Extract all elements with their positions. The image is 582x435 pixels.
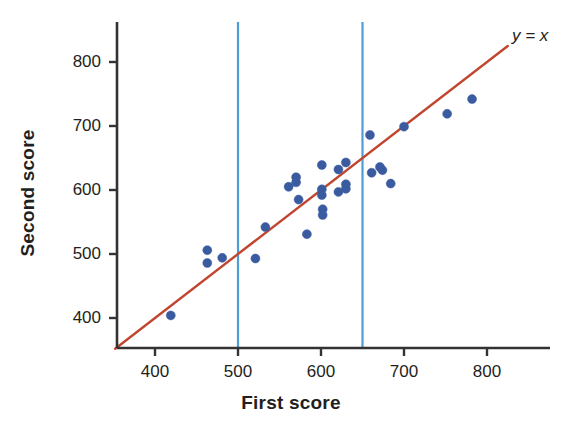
x-axis-tick-label: 800 xyxy=(457,362,517,382)
identity-line-group xyxy=(115,46,508,349)
y-axis-tick-label: 500 xyxy=(41,244,101,264)
identity-line xyxy=(115,46,508,349)
x-axis-tick-label: 600 xyxy=(291,362,351,382)
axis-lines-group xyxy=(109,22,550,356)
data-point xyxy=(365,130,374,139)
y-axis-title: Second score xyxy=(17,93,39,293)
chart-figure: First score Second score y = x 400500600… xyxy=(0,0,582,435)
data-point xyxy=(302,230,311,239)
data-point xyxy=(378,166,387,175)
identity-line-label: y = x xyxy=(512,26,548,46)
y-axis-tick-label: 700 xyxy=(41,116,101,136)
y-axis-tick-label: 400 xyxy=(41,308,101,328)
data-point xyxy=(292,178,301,187)
data-point xyxy=(341,158,350,167)
x-axis-title: First score xyxy=(0,392,582,414)
data-point xyxy=(386,179,395,188)
data-point xyxy=(317,191,326,200)
data-point xyxy=(367,168,376,177)
data-point xyxy=(203,246,212,255)
data-point xyxy=(400,122,409,131)
x-axis-tick-label: 500 xyxy=(208,362,268,382)
data-point xyxy=(341,184,350,193)
data-point xyxy=(334,165,343,174)
data-point xyxy=(443,109,452,118)
x-axis-tick-label: 400 xyxy=(125,362,185,382)
y-axis-tick-label: 600 xyxy=(41,180,101,200)
data-points-group xyxy=(166,95,476,320)
data-point xyxy=(166,311,175,320)
data-point xyxy=(317,161,326,170)
data-point xyxy=(294,195,303,204)
y-axis-tick-label: 800 xyxy=(41,52,101,72)
data-point xyxy=(203,258,212,267)
data-point xyxy=(318,210,327,219)
x-axis-tick-label: 700 xyxy=(374,362,434,382)
data-point xyxy=(251,254,260,263)
data-point xyxy=(261,223,270,232)
data-point xyxy=(468,95,477,104)
data-point xyxy=(218,253,227,262)
